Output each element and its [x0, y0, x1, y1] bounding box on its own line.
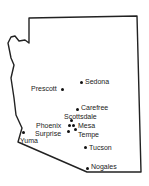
city-label: Carefree: [81, 104, 108, 112]
city-label: Prescott: [31, 85, 57, 93]
city-label: Tucson: [89, 144, 112, 152]
city-label: Nogales: [91, 163, 117, 171]
city-marker-icon: [68, 124, 71, 127]
city-marker-icon: [22, 131, 25, 134]
city-marker-icon: [74, 128, 77, 131]
city-marker-icon: [76, 108, 79, 111]
city-marker-icon: [80, 81, 83, 84]
city-label: Scottsdale: [64, 113, 97, 121]
city-label: Yuma: [20, 137, 38, 145]
arizona-outline: [0, 0, 149, 186]
city-marker-icon: [84, 146, 87, 149]
city-label: Tempe: [78, 131, 99, 139]
city-label: Surprise: [35, 130, 61, 138]
city-label: Mesa: [78, 122, 95, 130]
city-label: Sedona: [85, 78, 109, 86]
city-marker-icon: [72, 124, 75, 127]
city-marker-icon: [61, 88, 64, 91]
city-marker-icon: [67, 130, 70, 133]
city-marker-icon: [86, 167, 89, 170]
city-label: Phoenix: [36, 122, 61, 130]
